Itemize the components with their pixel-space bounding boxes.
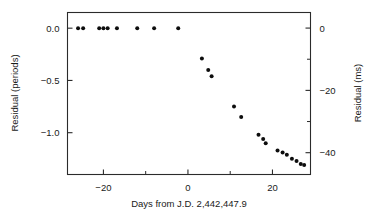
x-axis-label: Days from J.D. 2,442,447.9 — [131, 198, 247, 209]
data-point — [285, 153, 289, 157]
data-point — [295, 159, 299, 163]
data-point — [152, 26, 156, 30]
data-point — [281, 151, 285, 155]
x-tick-label: 20 — [267, 182, 278, 193]
data-point — [290, 157, 294, 161]
y-axis-label: Residual (periods) — [9, 54, 20, 131]
data-point — [76, 26, 80, 30]
data-point — [135, 26, 139, 30]
data-point — [239, 115, 243, 119]
x-tick-label: 0 — [185, 182, 190, 193]
data-point — [210, 74, 214, 78]
data-point — [257, 133, 261, 137]
data-point — [81, 26, 85, 30]
data-point — [299, 162, 303, 166]
scatter-plot-figure: −20020 0.0−0.5−1.0 0−20−40 Days from J.D… — [0, 0, 375, 218]
x-tick-label: −20 — [95, 182, 111, 193]
y2-axis-label: Residual (ms) — [352, 64, 363, 123]
y-tick-label: 0.0 — [46, 23, 59, 34]
y-tick-label: −0.5 — [41, 75, 60, 86]
y2-tick-label: −20 — [320, 85, 336, 96]
y2-tick-label: −40 — [320, 147, 336, 158]
data-point — [261, 137, 265, 141]
data-point — [264, 141, 268, 145]
data-point — [232, 105, 236, 109]
data-point — [106, 26, 110, 30]
plot-canvas: −20020 0.0−0.5−1.0 0−20−40 Days from J.D… — [0, 0, 375, 218]
y2-tick-label: 0 — [320, 23, 325, 34]
data-point — [101, 26, 105, 30]
data-point — [176, 26, 180, 30]
y-tick-label: −1.0 — [41, 127, 60, 138]
data-point — [206, 68, 210, 72]
data-point — [97, 26, 101, 30]
data-point — [200, 56, 204, 60]
data-point — [276, 148, 280, 152]
data-point — [302, 163, 306, 167]
data-point — [115, 26, 119, 30]
